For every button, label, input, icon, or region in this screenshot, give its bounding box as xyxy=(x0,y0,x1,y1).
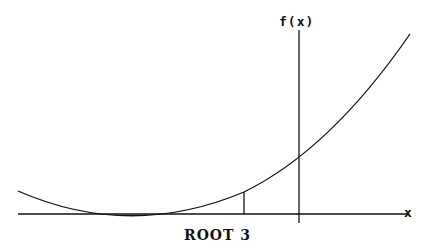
y-axis-label: f(x) xyxy=(279,14,314,29)
caption: ROOT 3 xyxy=(184,227,251,243)
function-curve xyxy=(18,34,410,216)
x-axis-label: x xyxy=(404,205,412,220)
function-plot xyxy=(0,0,429,251)
diagram-canvas: f(x) x ROOT 3 xyxy=(0,0,429,251)
